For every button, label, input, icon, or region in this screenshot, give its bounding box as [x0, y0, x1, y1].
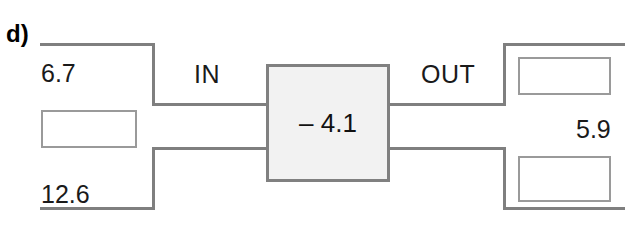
output-bottom-elbow — [503, 147, 506, 210]
answer-box-left-input[interactable] — [41, 110, 137, 148]
input-top-elbow — [152, 43, 155, 106]
operator-text: – 4.1 — [299, 110, 357, 136]
input-bottom-elbow — [152, 147, 155, 210]
in-label: IN — [194, 62, 220, 87]
out-label: OUT — [421, 62, 475, 87]
input-upper-inlet — [152, 103, 269, 106]
output-known-value: 5.9 — [576, 117, 611, 142]
output-lower-outlet — [389, 147, 506, 150]
output-top-rail — [503, 43, 625, 46]
output-bottom-rail — [503, 207, 625, 210]
output-upper-outlet — [389, 103, 506, 106]
input-bottom-value: 12.6 — [41, 182, 90, 207]
output-top-elbow — [503, 43, 506, 106]
input-top-value: 6.7 — [41, 61, 76, 86]
answer-box-right-bottom-output[interactable] — [518, 156, 611, 202]
function-machine-figure: d) 6.7 12.6 IN – 4.1 OUT 5.9 — [0, 0, 631, 237]
input-top-rail — [40, 43, 155, 46]
input-lower-inlet — [152, 147, 269, 150]
answer-box-right-top-output[interactable] — [518, 57, 611, 95]
part-label: d) — [6, 22, 29, 46]
operator-box: – 4.1 — [266, 64, 390, 182]
